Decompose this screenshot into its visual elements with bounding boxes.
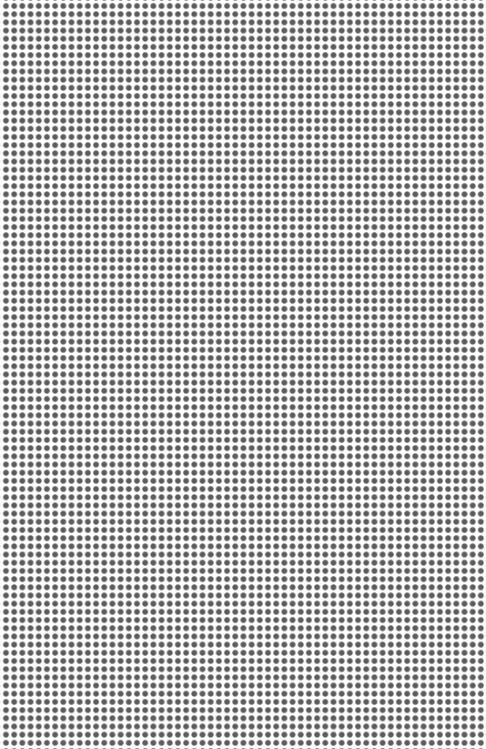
left-edge-fade	[0, 0, 2, 749]
dot-grid-pattern	[0, 0, 486, 749]
